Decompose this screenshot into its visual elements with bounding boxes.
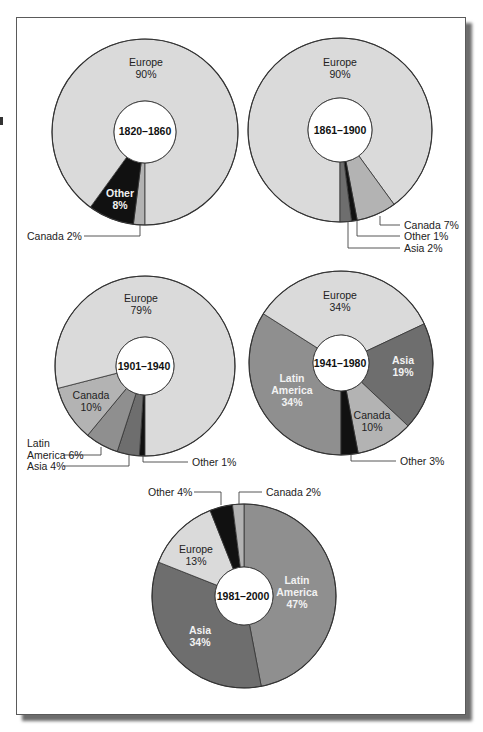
label-europe-pct: 90% (135, 68, 156, 80)
label-canada-pct: 10% (80, 401, 101, 413)
label-europe-pct: 34% (329, 301, 350, 313)
label-europe-pct: 13% (185, 555, 206, 567)
label-latin-america-pct: 34% (281, 396, 303, 408)
label-other-pct: 8% (112, 199, 128, 211)
label-canada-pct: 10% (361, 421, 382, 433)
label-other: Other 1% (404, 230, 448, 242)
label-latin-america-line1: Latin (284, 574, 309, 586)
label-canada: Canada 2% (27, 230, 82, 242)
label-canada: Canada 2% (266, 486, 321, 498)
label-asia: Asia (392, 354, 414, 366)
label-asia: Asia 4% (27, 460, 66, 472)
leader-line-1861-other (357, 220, 400, 236)
label-asia-pct: 19% (392, 366, 414, 378)
label-other: Other 4% (148, 486, 192, 498)
label-asia-pct: 34% (189, 636, 211, 648)
label-europe: Europe (323, 289, 357, 301)
label-latin-america-line1: Latin (27, 437, 50, 449)
label-latin-america-pct: 47% (286, 598, 308, 610)
label-europe: Europe (129, 56, 163, 68)
leader-line-1861-canada (380, 216, 400, 225)
label-europe: Europe (179, 543, 213, 555)
label-europe-pct: 79% (130, 304, 151, 316)
label-europe: Europe (124, 292, 158, 304)
center-period-label: 1901–1940 (118, 360, 171, 372)
center-period-label: 1941–1980 (314, 357, 367, 369)
label-asia: Asia 2% (404, 242, 443, 254)
center-period-label: 1981–2000 (217, 590, 270, 602)
label-canada: Canada (354, 409, 391, 421)
label-latin-america-line1: Latin (279, 372, 304, 384)
label-latin-america-line2: America (276, 586, 318, 598)
label-europe: Europe (323, 56, 357, 68)
leader-line-1941-other (351, 455, 396, 461)
center-period-label: 1820–1860 (119, 125, 172, 137)
label-europe-pct: 90% (329, 68, 350, 80)
donut-charts: Europe 90% 1820–1860 Other 8% Canada 2% … (0, 0, 483, 732)
leader-line-1981-canada (239, 492, 262, 504)
label-latin-america-line2: America (271, 384, 313, 396)
center-period-label: 1861–1900 (314, 124, 367, 136)
leader-line-1981-other (194, 492, 221, 505)
label-asia: Asia (189, 624, 211, 636)
label-other: Other 1% (192, 456, 236, 468)
label-other: Other (106, 187, 134, 199)
label-other: Other 3% (400, 455, 444, 467)
label-canada: Canada (73, 389, 110, 401)
leader-line-1820-canada (84, 224, 140, 236)
